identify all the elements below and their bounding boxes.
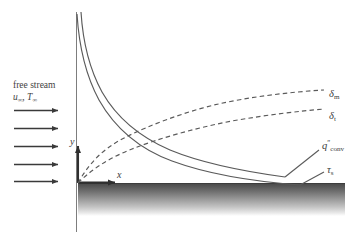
- curve-delta-t: [78, 109, 324, 183]
- y-axis-label: y: [70, 136, 74, 148]
- boundary-layer-figure: free stream u∞, T∞ y x δm δt q″conv τs: [0, 0, 357, 238]
- T-subscript-infinity: ∞: [32, 96, 37, 103]
- leader-q-conv: [285, 150, 319, 177]
- free-stream-text: free stream: [13, 80, 55, 90]
- free-stream-arrows: [14, 111, 58, 182]
- free-stream-label: free stream u∞, T∞: [13, 80, 55, 103]
- delta-m-label: δm: [329, 88, 339, 101]
- q-subscript-conv: conv: [330, 145, 344, 153]
- delta-m-subscript: m: [334, 93, 340, 101]
- curve-q-conv: [81, 12, 285, 177]
- label-leader-lines: [285, 150, 324, 185]
- tau-subscript-s: s: [331, 169, 334, 177]
- figure-canvas: [0, 0, 357, 238]
- free-stream-variables: u∞, T∞: [13, 92, 55, 103]
- delta-t-subscript: t: [334, 115, 336, 123]
- x-axis-label: x: [117, 169, 121, 181]
- plate-wall: [78, 184, 345, 217]
- curve-delta-m: [78, 90, 324, 183]
- delta-t-label: δt: [329, 110, 336, 123]
- tau-s-label: τs: [327, 164, 334, 177]
- q-conv-label: q″conv: [322, 140, 344, 153]
